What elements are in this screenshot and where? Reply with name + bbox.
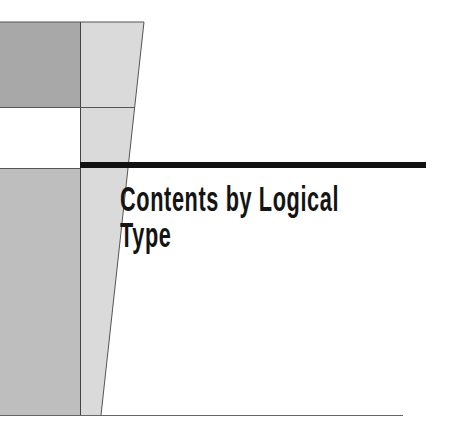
- dark-gray-block: [0, 22, 80, 107]
- mid-gray-block: [0, 168, 80, 415]
- title-rule-bar: [80, 162, 426, 168]
- page-title-line-2: Type: [120, 217, 339, 253]
- page-title: Contents by Logical Type: [120, 181, 339, 253]
- page-title-line-1: Contents by Logical: [120, 181, 339, 217]
